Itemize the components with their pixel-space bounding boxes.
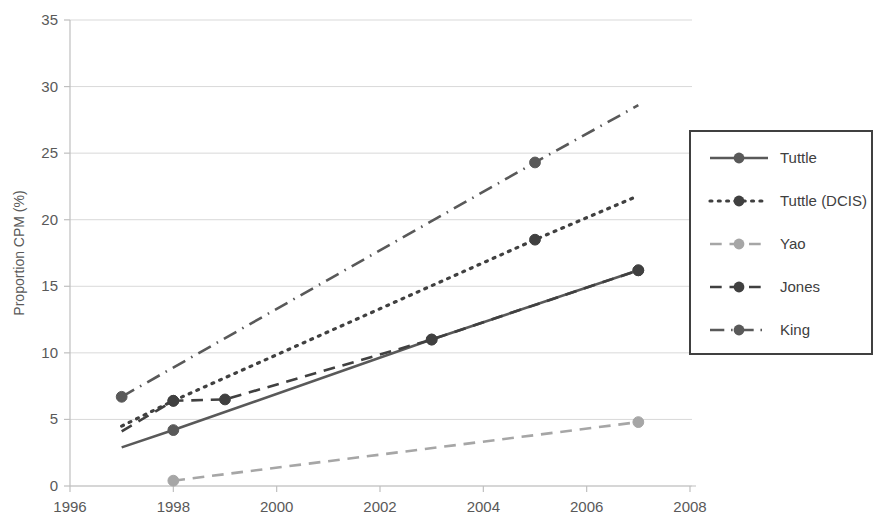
y-tick-label-0: 0: [50, 477, 58, 494]
data-point-marker: [530, 234, 541, 245]
y-tick-label-5: 5: [50, 410, 58, 427]
data-point-marker: [633, 417, 644, 428]
series-line: [122, 270, 639, 447]
y-tick-labels: 05101520253035: [41, 11, 58, 494]
series-yao: [168, 417, 644, 486]
x-tick-label-2000: 2000: [260, 498, 293, 515]
legend-marker-sample: [734, 325, 745, 336]
y-tick-label-15: 15: [41, 277, 58, 294]
data-point-marker: [530, 157, 541, 168]
series-line: [122, 270, 639, 431]
series-line: [173, 422, 638, 481]
chart-legend: TuttleTuttle (DCIS)YaoJonesKing: [690, 131, 872, 354]
data-point-marker: [116, 391, 127, 402]
x-tick-label-1996: 1996: [53, 498, 86, 515]
x-tick-label-2002: 2002: [363, 498, 396, 515]
data-point-marker: [168, 475, 179, 486]
legend-marker-sample: [734, 196, 745, 207]
legend-marker-sample: [734, 239, 745, 250]
series-tuttle-dcis: [122, 196, 639, 426]
gridlines-group: [70, 20, 692, 486]
x-tick-label-2004: 2004: [467, 498, 500, 515]
legend-label: Yao: [780, 235, 806, 252]
y-tick-label-10: 10: [41, 344, 58, 361]
axes-group: [64, 20, 696, 492]
chart-container: 05101520253035 1996199820002002200420062…: [0, 0, 877, 522]
x-tick-label-2008: 2008: [673, 498, 706, 515]
y-tick-label-30: 30: [41, 78, 58, 95]
legend-label: Tuttle: [780, 149, 817, 166]
legend-label: King: [780, 321, 810, 338]
y-axis-title: Proportion CPM (%): [11, 190, 27, 315]
y-tick-label-25: 25: [41, 144, 58, 161]
series-jones: [122, 265, 644, 432]
data-point-marker: [426, 334, 437, 345]
legend-label: Tuttle (DCIS): [780, 192, 867, 209]
legend-label: Jones: [780, 278, 820, 295]
legend-marker-sample: [734, 153, 745, 164]
x-tick-label-2006: 2006: [570, 498, 603, 515]
x-tick-labels: 1996199820002002200420062008: [53, 498, 706, 515]
series-line: [122, 196, 639, 426]
x-tick-label-1998: 1998: [157, 498, 190, 515]
legend-marker-sample: [734, 282, 745, 293]
data-point-marker: [633, 265, 644, 276]
y-tick-label-35: 35: [41, 11, 58, 28]
data-series-layer: [116, 105, 643, 486]
data-point-marker: [168, 425, 179, 436]
data-point-marker: [220, 394, 231, 405]
y-tick-label-20: 20: [41, 211, 58, 228]
line-chart: 05101520253035 1996199820002002200420062…: [0, 0, 877, 522]
y-axis-title-text: Proportion CPM (%): [11, 190, 27, 315]
series-tuttle: [122, 265, 644, 447]
data-point-marker: [168, 395, 179, 406]
